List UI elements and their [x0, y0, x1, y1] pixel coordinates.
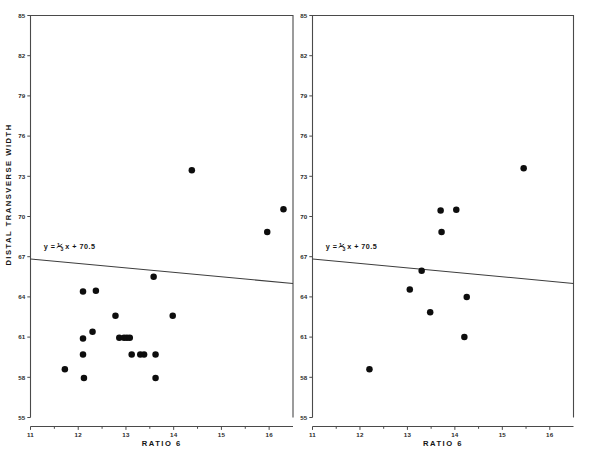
y-tick-label: 85 — [300, 12, 308, 19]
data-point — [463, 294, 470, 301]
data-point — [141, 351, 148, 358]
regression-equation: y = −13x + 70.5 — [44, 242, 96, 252]
x-tick-label: 14 — [170, 431, 178, 438]
equation-tail: x + 70.5 — [347, 242, 377, 251]
x-tick-label: 13 — [404, 431, 412, 438]
data-point — [407, 286, 414, 293]
data-point — [264, 229, 271, 236]
data-point — [80, 351, 87, 358]
y-tick-label: 73 — [18, 173, 26, 180]
y-tick-label: 61 — [18, 333, 26, 340]
data-point — [152, 351, 159, 358]
y-tick-label: 55 — [18, 414, 26, 421]
x-tick-label: 15 — [218, 431, 226, 438]
y-tick-label: 79 — [300, 92, 308, 99]
y-tick-label: 82 — [18, 52, 26, 59]
y-axis-title: DISTAL TRANSVERSE WIDTH — [4, 123, 13, 265]
y-tick-label: 82 — [300, 52, 308, 59]
data-point — [80, 288, 87, 295]
data-point — [453, 207, 460, 214]
data-point — [81, 375, 88, 382]
y-tick-label: 70 — [300, 213, 308, 220]
panel-left: 5558616467707376798285111213141516RATIO … — [4, 12, 293, 448]
data-point — [366, 366, 373, 373]
plot-frame — [31, 16, 294, 418]
regression-line — [31, 259, 294, 284]
x-axis-title: RATIO 6 — [423, 439, 463, 448]
data-point — [93, 288, 100, 295]
data-point — [520, 165, 527, 172]
data-point — [169, 312, 176, 319]
data-point — [62, 366, 69, 373]
x-tick-label: 12 — [75, 431, 83, 438]
y-tick-label: 85 — [18, 12, 26, 19]
y-tick-label: 58 — [300, 374, 308, 381]
y-tick-label: 67 — [300, 253, 308, 260]
y-tick-label: 76 — [300, 132, 308, 139]
data-point — [437, 207, 444, 214]
x-axis-title: RATIO 6 — [142, 439, 182, 448]
data-point — [461, 334, 468, 341]
plot-frame — [313, 16, 574, 418]
scatter-figure: 5558616467707376798285111213141516RATIO … — [0, 0, 591, 452]
y-tick-label: 64 — [300, 293, 308, 300]
x-tick-label: 11 — [27, 431, 34, 438]
data-points-right — [366, 165, 527, 373]
y-tick-label: 55 — [300, 414, 308, 421]
data-points-left — [62, 167, 287, 381]
x-tick-label: 16 — [265, 431, 273, 438]
x-tick-label: 14 — [451, 431, 459, 438]
panel-right: 5558616467707376798285111213141516RATIO … — [300, 12, 573, 448]
data-point — [189, 167, 196, 174]
y-tick-label: 70 — [18, 213, 26, 220]
x-tick-label: 15 — [499, 431, 507, 438]
y-tick-label: 76 — [18, 132, 26, 139]
x-tick-label: 13 — [122, 431, 130, 438]
equation-tail: x + 70.5 — [65, 242, 95, 251]
data-point — [150, 274, 157, 281]
y-tick-label: 79 — [18, 92, 26, 99]
y-tick-label: 64 — [18, 293, 26, 300]
x-tick-label: 11 — [309, 431, 316, 438]
x-tick-label: 16 — [546, 431, 554, 438]
regression-equation: y = −13x + 70.5 — [326, 242, 378, 252]
y-tick-label: 58 — [18, 374, 26, 381]
data-point — [112, 312, 119, 319]
y-tick-label: 73 — [300, 173, 308, 180]
y-tick-label: 67 — [18, 253, 26, 260]
figure-canvas: 5558616467707376798285111213141516RATIO … — [0, 0, 591, 452]
data-point — [128, 351, 135, 358]
equation-denominator: 3 — [342, 246, 345, 252]
data-point — [127, 335, 134, 342]
data-point — [280, 206, 287, 213]
data-point — [438, 229, 445, 236]
y-tick-label: 61 — [300, 333, 308, 340]
data-point — [418, 268, 425, 275]
regression-line — [313, 259, 574, 284]
data-point — [152, 375, 159, 382]
equation-denominator: 3 — [60, 246, 63, 252]
data-point — [427, 309, 434, 316]
data-point — [89, 328, 96, 335]
data-point — [80, 335, 87, 342]
x-tick-label: 12 — [356, 431, 364, 438]
